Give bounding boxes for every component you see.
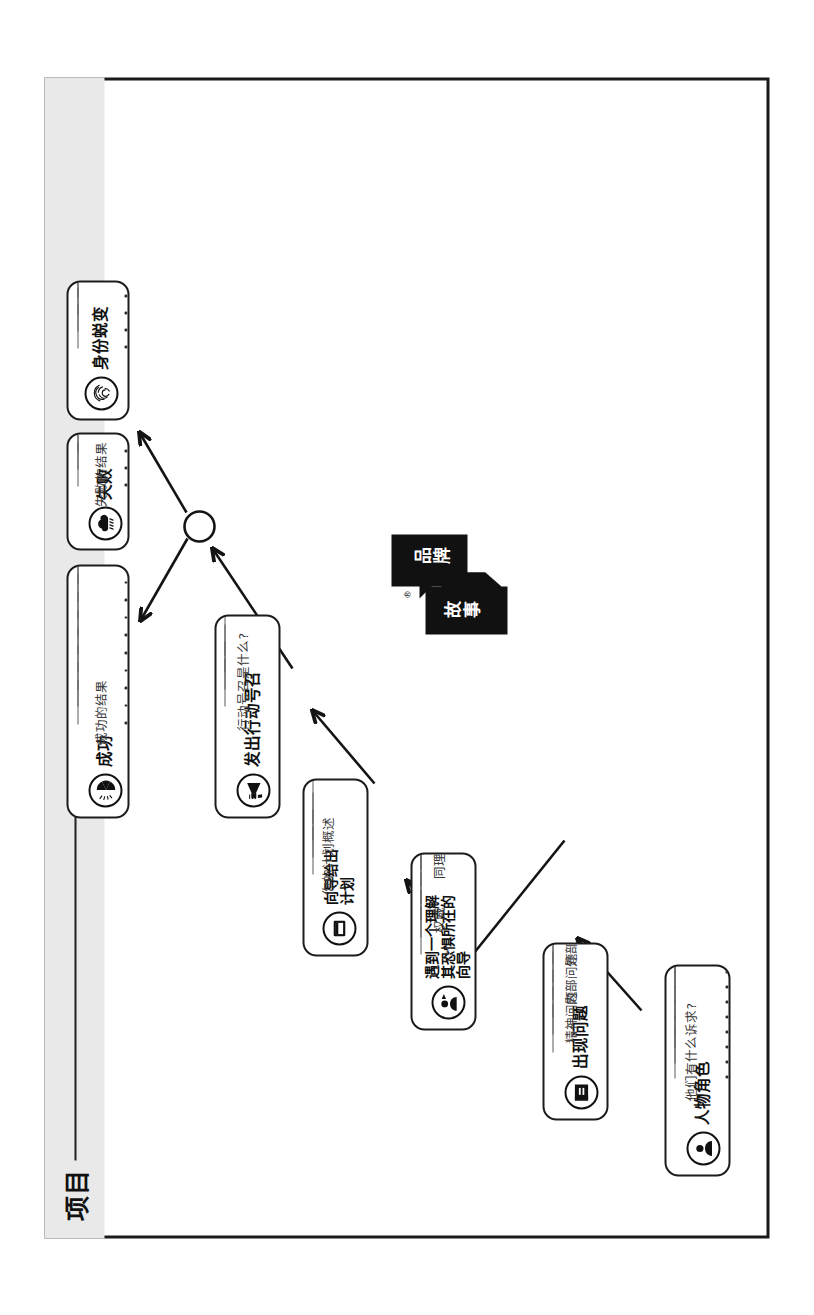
header-divider-rule: [75, 802, 77, 1160]
write-line[interactable]: [553, 942, 554, 965]
card-header: 成功: [89, 734, 123, 807]
fingerprint-icon: [85, 376, 119, 410]
registered-mark-icon: ®: [404, 590, 413, 598]
line-dot: [726, 1075, 729, 1078]
write-line[interactable]: [78, 564, 79, 583]
line-dot: [125, 633, 128, 636]
line-dot: [125, 311, 128, 314]
line-dot: [125, 669, 128, 672]
card-section-label: 权威: [429, 906, 448, 932]
write-line[interactable]: [78, 432, 79, 452]
line-dot: [125, 616, 128, 619]
line-dot: [125, 721, 128, 724]
line-dot: [125, 598, 128, 601]
line-dot: [125, 581, 128, 584]
logo-brand-word: 品牌: [414, 543, 452, 568]
page-canvas: 项目 一页式品牌脚本: [0, 0, 814, 1315]
write-line[interactable]: [78, 280, 79, 297]
guide-person-icon: [431, 985, 465, 1019]
card-failure[interactable]: 失败失败的结果: [67, 432, 130, 550]
brandstory-logo: 品牌故事®: [390, 530, 510, 638]
worksheet-sheet: 项目 一页式品牌脚本: [45, 77, 770, 1238]
line-dot: [125, 704, 128, 707]
card-character[interactable]: 人物角色他们有什么诉求?: [665, 964, 731, 1176]
card-subtitle: 他们有什么诉求?: [681, 1002, 700, 1100]
card-call-to-action[interactable]: 发出行动号召行动号召是什么?: [215, 614, 281, 818]
card-subtitle: 你的计划概述: [318, 816, 337, 894]
card-subtitle: 成功的结果: [91, 679, 110, 744]
card-guide[interactable]: 遇到一个理解 其恐惧所在的 向导同理心权威: [411, 852, 477, 1030]
line-dot: [125, 483, 128, 486]
line-dot: [125, 449, 128, 452]
line-dot: [125, 651, 128, 654]
card-success[interactable]: 成功成功的结果: [67, 564, 130, 818]
person-icon: [687, 1131, 721, 1165]
line-dot: [125, 294, 128, 297]
trophy-medal-icon: [89, 773, 123, 807]
page-title: 项目: [45, 1168, 105, 1220]
storm-cloud-icon: [89, 506, 123, 540]
card-header: 身份蜕变: [85, 305, 119, 410]
write-line[interactable]: [313, 778, 314, 823]
card-transformation[interactable]: 身份蜕变: [67, 280, 130, 420]
line-dot: [726, 985, 729, 988]
worksheet-frame: [45, 77, 770, 1238]
card-title: 身份蜕变: [93, 305, 110, 369]
line-dot: [125, 686, 128, 689]
card-plan[interactable]: 向导给出 计划你的计划概述: [303, 778, 369, 956]
line-dot: [125, 345, 128, 348]
line-dot: [726, 1045, 729, 1048]
write-line[interactable]: [675, 964, 676, 973]
line-dot: [726, 1030, 729, 1033]
card-section-label: 精神问题: [561, 990, 580, 1042]
lightning-bolt-icon: [565, 1075, 599, 1109]
line-dot: [726, 1015, 729, 1018]
card-section-label: 同理心: [429, 852, 448, 878]
line-dot: [726, 1060, 729, 1063]
write-line[interactable]: [421, 852, 422, 869]
card-problem[interactable]: 出现问题外部问题内部问题精神问题: [543, 942, 609, 1120]
line-dot: [726, 970, 729, 973]
logo-story-word: 故事: [444, 597, 482, 622]
clipboard-icon: [323, 911, 357, 945]
card-subtitle: 行动号召是什么?: [233, 632, 252, 730]
line-dot: [125, 466, 128, 469]
line-dot: [125, 328, 128, 331]
card-subtitle: 失败的结果: [91, 441, 110, 506]
line-dot: [726, 1000, 729, 1003]
write-line[interactable]: [225, 614, 226, 655]
megaphone-icon: [237, 773, 271, 807]
